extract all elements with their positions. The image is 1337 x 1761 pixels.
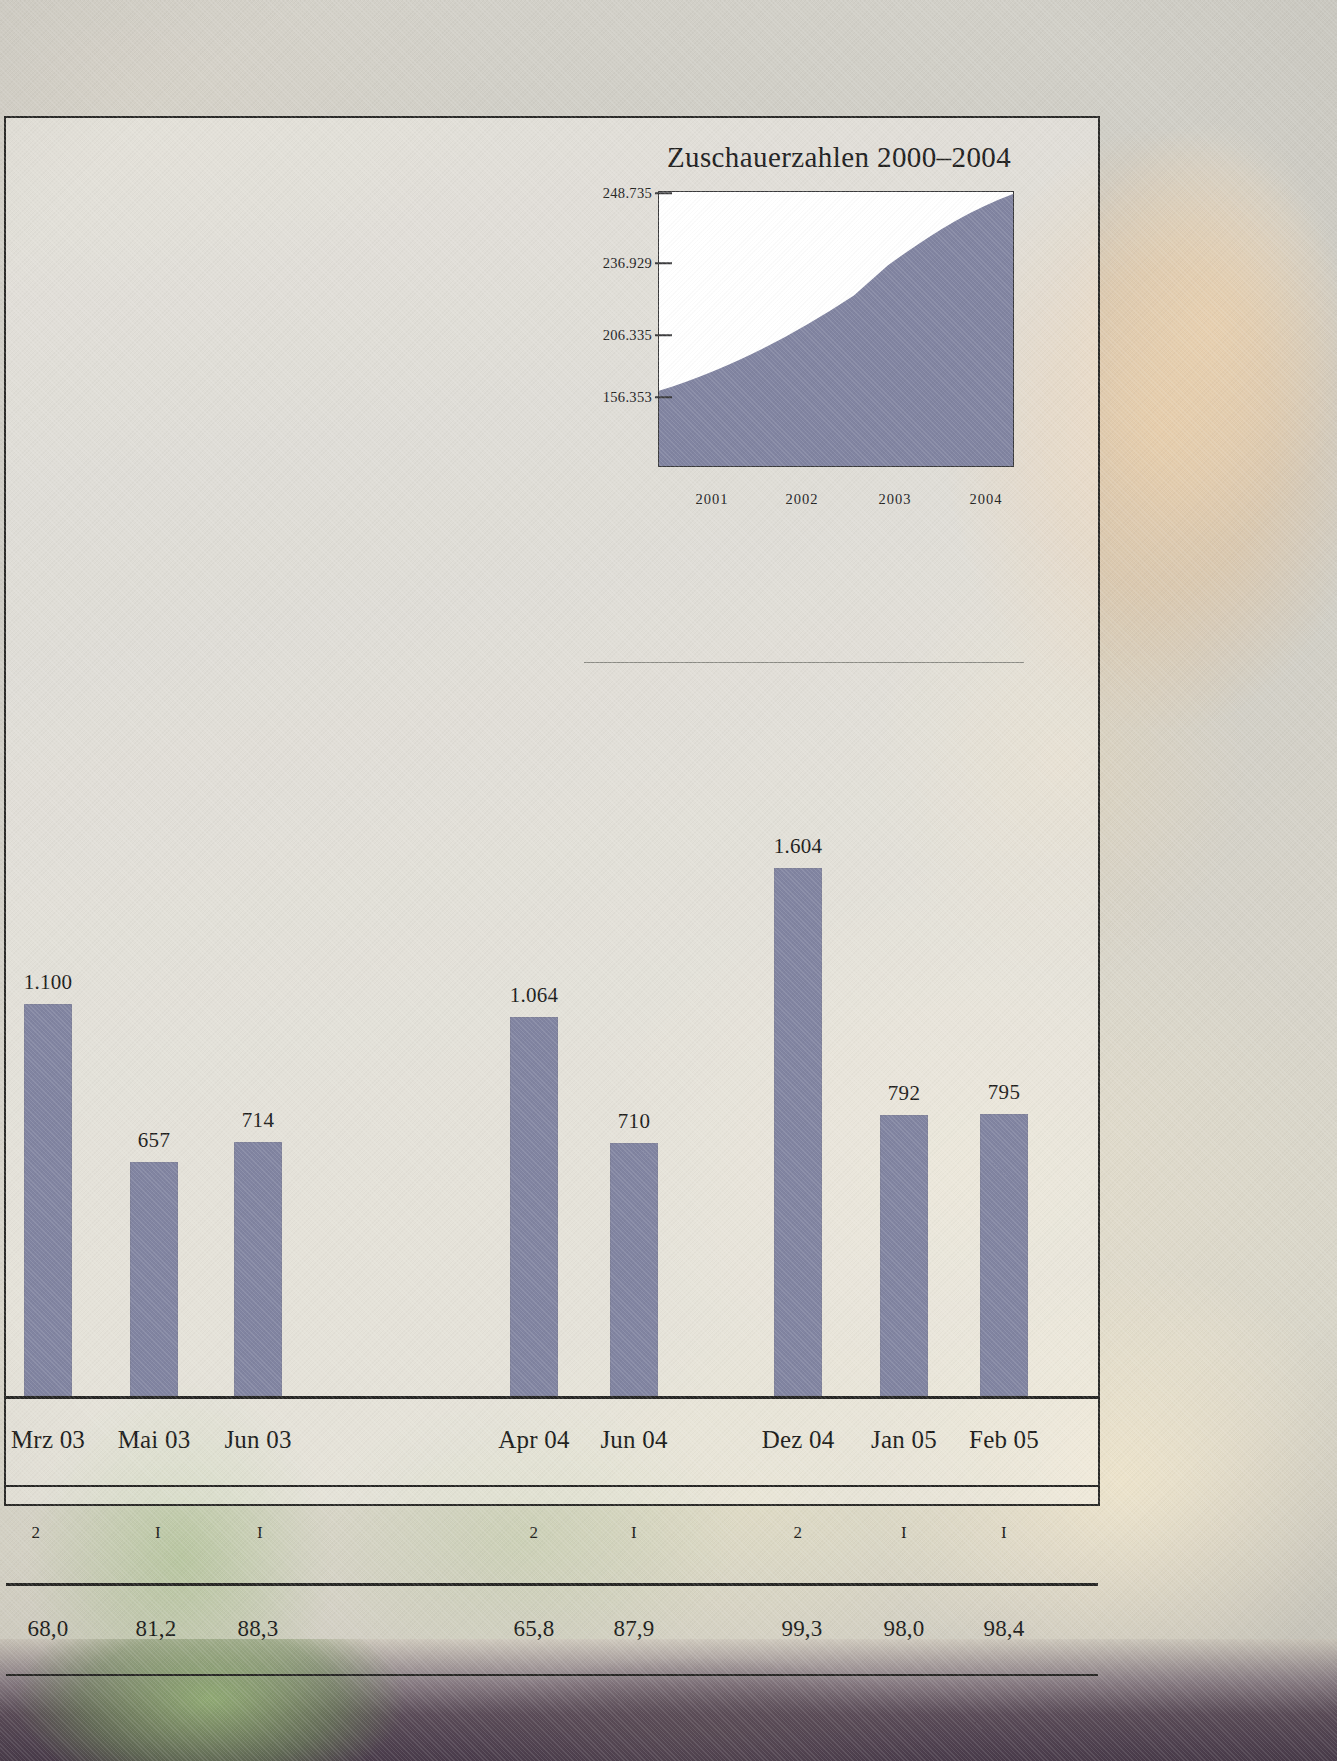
bar-rect — [880, 1115, 928, 1396]
table-cell-count: 2 — [794, 1523, 803, 1543]
area-chart-plot — [658, 191, 1014, 467]
bar-column-apr-04: 1.064 — [510, 1017, 558, 1396]
table-cell-percent: 81,2 — [135, 1616, 176, 1642]
table-cell-month: Dez 04 — [762, 1426, 835, 1454]
bar-rect — [234, 1142, 282, 1396]
area-x-label-2004: 2004 — [970, 491, 1003, 508]
bar-rect — [24, 1004, 72, 1396]
table-cell-month: Mai 03 — [118, 1426, 191, 1454]
bar-value-label: 1.604 — [774, 834, 823, 859]
area-y-tick-mark-3 — [655, 334, 672, 336]
bar-value-label: 710 — [618, 1109, 650, 1134]
table-cell-month: Jun 03 — [224, 1426, 291, 1454]
bar-column-dez-04: 1.604 — [774, 868, 822, 1396]
bar-rect — [510, 1017, 558, 1396]
area-x-label-2002: 2002 — [786, 491, 819, 508]
bar-column-jun-03: 714 — [234, 1142, 282, 1396]
bar-column-mai-03: 657 — [130, 1162, 178, 1396]
table-cell-month: Apr 04 — [498, 1426, 569, 1454]
area-chart: Zuschauerzahlen 2000–2004 248.735 236.92… — [584, 141, 1024, 531]
table-cell-month: Jan 05 — [871, 1426, 937, 1454]
area-y-tick-mark-1 — [655, 192, 672, 194]
table-cell-percent: 65,8 — [513, 1616, 554, 1642]
table-cell-month: Mrz 03 — [11, 1426, 85, 1454]
table-cell-count: I — [901, 1523, 907, 1543]
bar-chart: 1.100 657 714 1.064 710 1.604 792 795 — [6, 736, 1098, 1396]
bar-value-label: 1.064 — [510, 983, 559, 1008]
bar-column-mrz-03: 1.100 — [24, 1004, 72, 1396]
table-cell-percent: 98,4 — [983, 1616, 1024, 1642]
table-cell-count: I — [155, 1523, 161, 1543]
area-y-tick-mark-2 — [655, 262, 672, 264]
area-chart-title: Zuschauerzahlen 2000–2004 — [654, 141, 1024, 174]
table-cell-count: I — [257, 1523, 263, 1543]
table-row-counts: 2 I I 2 I 2 I I — [6, 1487, 1098, 1583]
table-cell-percent: 99,3 — [781, 1616, 822, 1642]
bar-value-label: 714 — [242, 1108, 274, 1133]
table-cell-count: 2 — [32, 1523, 41, 1543]
area-chart-filled-series — [659, 192, 1013, 466]
table-cell-month: Jun 04 — [600, 1426, 667, 1454]
table-cell-percent: 98,0 — [883, 1616, 924, 1642]
table-cell-percent: 88,3 — [237, 1616, 278, 1642]
bar-value-label: 1.100 — [24, 970, 73, 995]
table-cell-count: I — [631, 1523, 637, 1543]
bar-rect — [130, 1162, 178, 1396]
bar-rect — [610, 1143, 658, 1396]
bar-column-jun-04: 710 — [610, 1143, 658, 1396]
table-row-percent: 68,0 81,2 88,3 65,8 87,9 99,3 98,0 98,4 — [6, 1586, 1098, 1674]
area-y-tick-label-2: 236.929 — [603, 255, 652, 272]
bar-column-jan-05: 792 — [880, 1115, 928, 1396]
table-cell-count: I — [1001, 1523, 1007, 1543]
area-x-label-2003: 2003 — [879, 491, 912, 508]
bar-rect — [774, 868, 822, 1396]
table-cell-month: Feb 05 — [969, 1426, 1039, 1454]
area-y-tick-label-4: 156.353 — [603, 389, 652, 406]
bar-value-label: 795 — [988, 1080, 1020, 1105]
area-y-tick-label-1: 248.735 — [603, 185, 652, 202]
table-rule-bottom — [6, 1674, 1098, 1677]
area-y-tick-mark-4 — [655, 396, 672, 398]
area-x-label-2001: 2001 — [696, 491, 729, 508]
table-row-months: Mrz 03 Mai 03 Jun 03 Apr 04 Jun 04 Dez 0… — [6, 1399, 1098, 1485]
bar-column-feb-05: 795 — [980, 1114, 1028, 1396]
table-cell-percent: 87,9 — [613, 1616, 654, 1642]
area-y-tick-label-3: 206.335 — [603, 327, 652, 344]
table-cell-percent: 68,0 — [27, 1616, 68, 1642]
table-cell-count: 2 — [530, 1523, 539, 1543]
data-table: Mrz 03 Mai 03 Jun 03 Apr 04 Jun 04 Dez 0… — [6, 1396, 1098, 1676]
bar-rect — [980, 1114, 1028, 1396]
section-divider-rule — [584, 662, 1024, 663]
bar-value-label: 792 — [888, 1081, 920, 1106]
bar-value-label: 657 — [138, 1128, 170, 1153]
